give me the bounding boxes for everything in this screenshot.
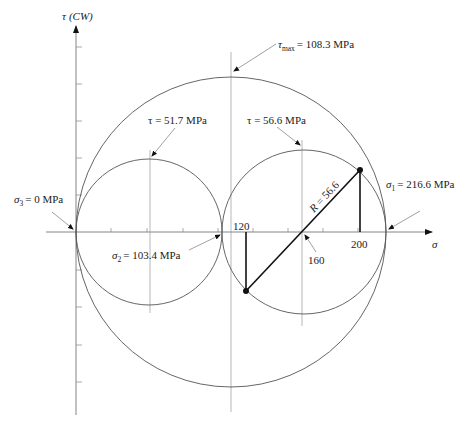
stress-point-b [357, 167, 363, 173]
stress-state [246, 170, 360, 291]
stress-point-a [243, 288, 249, 294]
tau-right-label: τ = 56.6 MPa [247, 114, 306, 126]
tick-label-160: 160 [308, 254, 325, 266]
sigma3-label: σ3= 0 MPa [14, 193, 63, 208]
sigma-axis-label: σ [432, 238, 438, 250]
tick-label-120: 120 [233, 220, 250, 232]
tau-max-label: τmax= 108.3 MPa [278, 38, 354, 53]
sigma2-label: σ2= 103.4 MPa [112, 249, 181, 264]
tick-label-200: 200 [351, 238, 368, 250]
mohr-circle-diagram: τ(CW) σ τmax= 108.3 MPa τ = 51.7 MPa τ =… [0, 0, 466, 425]
diagram-svg: τ(CW) σ τmax= 108.3 MPa τ = 51.7 MPa τ =… [0, 0, 466, 425]
tau-left-label: τ = 51.7 MPa [148, 114, 207, 126]
sigma1-label: σ1= 216.6 MPa [386, 178, 455, 193]
tau-axis-label: τ(CW) [62, 10, 93, 23]
